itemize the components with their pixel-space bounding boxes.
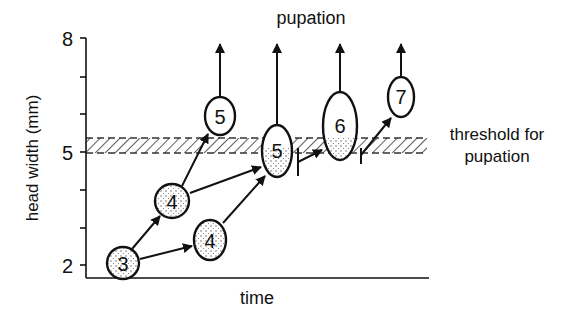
x-axis-label: time — [240, 288, 274, 308]
node-instar-5a: 5 — [205, 97, 235, 135]
node-instar-4b: 4 — [194, 220, 226, 260]
arrow-4b-to-5b — [223, 176, 265, 223]
arrow-3-to-4b — [140, 246, 192, 259]
node-instar-7: 7 — [388, 77, 414, 117]
pupation-title: pupation — [276, 8, 345, 28]
arrow-3-to-4a — [132, 216, 160, 249]
svg-text:5: 5 — [214, 106, 225, 128]
y-axis — [80, 38, 86, 278]
y-tick-2: 2 — [62, 255, 73, 277]
node-instar-5b: 5 — [262, 125, 292, 177]
y-tick-8: 8 — [62, 28, 73, 50]
arrow-4a-to-5b — [190, 167, 261, 193]
y-axis-label: head width (mm) — [23, 95, 42, 222]
pupation-diagram: 8 5 2 head width (mm) time pupation thre… — [0, 0, 570, 317]
threshold-label-line2: pupation — [464, 147, 529, 166]
svg-text:3: 3 — [117, 253, 128, 275]
svg-text:4: 4 — [204, 230, 215, 252]
svg-text:7: 7 — [395, 86, 406, 108]
node-instar-3: 3 — [107, 247, 139, 279]
diagram-canvas: 8 5 2 head width (mm) time pupation thre… — [0, 0, 570, 317]
threshold-band — [86, 138, 427, 153]
svg-text:4: 4 — [166, 191, 177, 213]
pupation-arrows — [220, 44, 401, 125]
node-instar-4a: 4 — [155, 184, 189, 218]
node-instar-6: 6 — [323, 92, 357, 160]
threshold-label-line1: threshold for — [450, 125, 545, 144]
svg-text:5: 5 — [271, 140, 282, 162]
svg-text:6: 6 — [334, 115, 345, 137]
y-tick-5: 5 — [62, 142, 73, 164]
